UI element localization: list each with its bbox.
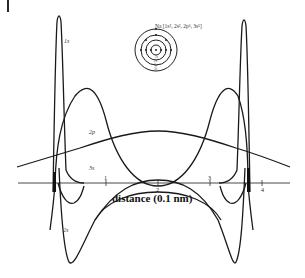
nucleus-right: [247, 168, 250, 192]
tick-label-4: 4: [261, 187, 264, 193]
na-atom-diagram: Na [1s², 2s², 2p⁶, 3s¹] 1s 2s 2p 3s: [135, 23, 202, 71]
tick-label-1: 1: [104, 175, 107, 181]
orbital-diagram: 0 1 2 3 4 distance (0.1 nm) 1s 2p 3s 2s …: [0, 0, 305, 278]
label-3s: 3s: [88, 165, 95, 171]
tick-label-3: 3: [208, 175, 211, 181]
label-2p: 2p: [89, 129, 95, 135]
curve-2s: [59, 168, 245, 263]
curve-2p: [55, 88, 248, 186]
label-2s: 2s: [63, 227, 69, 233]
curve-1s-right: [219, 20, 250, 192]
atom-config-label: Na [1s², 2s², 2p⁶, 3s¹]: [155, 23, 202, 29]
label-1s: 1s: [64, 38, 70, 44]
curve-2s-right-loop: [220, 183, 246, 203]
curve-2s-left-loop: [58, 183, 84, 203]
shell-label-3s: 3s: [154, 67, 158, 71]
nucleus-left: [53, 172, 56, 192]
